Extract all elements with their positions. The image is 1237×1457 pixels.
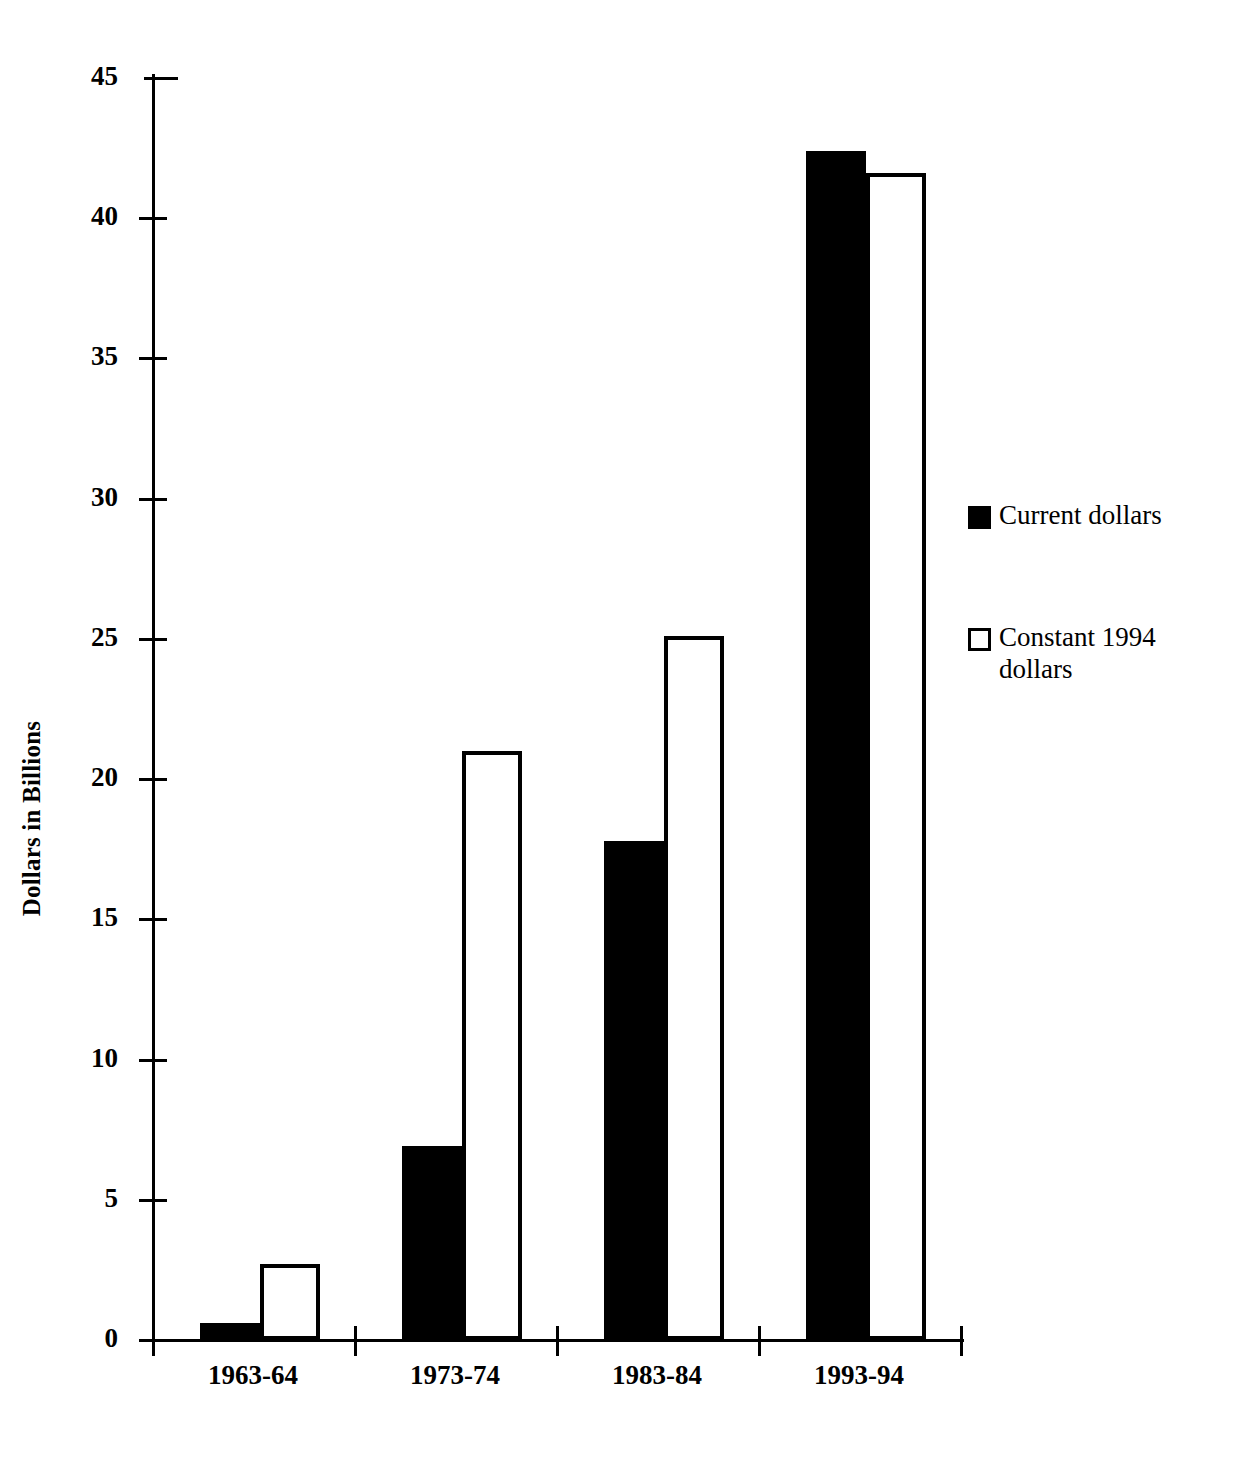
legend-label-current-dollars: Current dollars [999,500,1230,532]
y-tick-label: 15 [58,904,118,934]
bar [806,151,866,1340]
y-tick-label-text: 5 [58,1185,118,1212]
y-axis-title: Dollars in Billions [18,0,62,1457]
y-tick-label: 20 [58,764,118,794]
y-tick-mark [139,638,167,641]
y-tick-label: 25 [58,624,118,654]
bar [200,1323,260,1340]
legend-item-current-dollars: Current dollars [968,500,1230,532]
x-tick-label: 1963-64 [153,1360,353,1391]
y-tick-label-text: 45 [58,63,118,90]
y-tick-mark [139,217,167,220]
y-tick-label: 0 [58,1325,118,1355]
bar-chart: Dollars in Billions 454035302520151050 1… [0,0,1237,1457]
y-tick-label: 45 [58,63,118,93]
x-tick-mark [354,1326,357,1356]
y-tick-label-text: 30 [58,484,118,511]
y-tick-label-text: 20 [58,764,118,791]
y-tick-label-text: 0 [58,1325,118,1352]
x-tick-label: 1993-94 [759,1360,959,1391]
y-tick-label: 5 [58,1185,118,1215]
y-tick-mark [144,77,178,80]
x-tick-mark [758,1326,761,1356]
legend-item-constant-dollars: Constant 1994 dollars [968,622,1230,686]
legend-label-constant-dollars: Constant 1994 dollars [999,622,1230,686]
y-tick-label-text: 10 [58,1045,118,1072]
y-tick-mark [139,778,167,781]
y-tick-mark [139,918,167,921]
x-tick-label: 1983-84 [557,1360,757,1391]
bar [402,1146,462,1340]
y-tick-label: 40 [58,203,118,233]
y-tick-label: 10 [58,1045,118,1075]
y-tick-label-text: 25 [58,624,118,651]
x-tick-mark [556,1326,559,1356]
y-tick-label: 30 [58,484,118,514]
y-tick-label: 35 [58,343,118,373]
bar [260,1264,320,1340]
y-axis-title-text: Dollars in Billions [18,721,45,917]
y-tick-mark [139,498,167,501]
y-tick-label-text: 40 [58,203,118,230]
filled-square-icon [968,506,991,529]
x-tick-mark [960,1326,963,1356]
bar [866,173,926,1340]
hollow-square-icon [968,628,991,651]
y-tick-label-text: 35 [58,343,118,370]
x-tick-label: 1973-74 [355,1360,555,1391]
y-axis-line [152,74,155,1344]
chart-legend: Current dollars Constant 1994 dollars [968,500,1230,776]
x-tick-mark [152,1326,155,1356]
bar [664,636,724,1340]
y-tick-label-text: 15 [58,904,118,931]
y-tick-mark [139,1199,167,1202]
bar [462,751,522,1340]
bar [604,841,664,1340]
y-tick-mark [139,357,167,360]
y-tick-mark [139,1059,167,1062]
